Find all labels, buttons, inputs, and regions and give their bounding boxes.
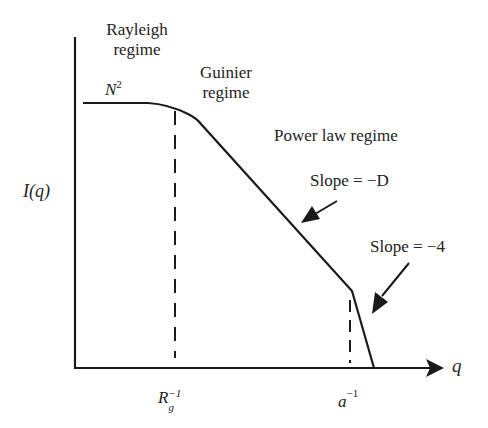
rayleigh-line1: Rayleigh (96, 20, 178, 40)
slope-4-text: Slope = −4 (370, 237, 445, 256)
rg-sub: g (168, 397, 174, 417)
slope-d-annotation: Slope = −D (310, 171, 389, 191)
a-sup: −1 (347, 387, 359, 399)
y-axis-label-text: I(q) (23, 181, 50, 201)
a-tick-label: a−1 (338, 392, 358, 412)
x-axis-label-text: q (452, 355, 462, 376)
plateau-base: N (105, 80, 116, 99)
slope-4-arrow-shaft (382, 263, 409, 296)
slope-d-text: Slope = −D (310, 171, 389, 190)
a-base: a (338, 392, 347, 411)
slope-4-annotation: Slope = −4 (370, 237, 445, 257)
x-axis-label: q (452, 356, 462, 376)
guinier-line1: Guinier (190, 63, 262, 83)
rg-tick-label: R−1g (158, 388, 180, 408)
rayleigh-regime-label: Rayleigh regime (96, 20, 178, 60)
plateau-sup: 2 (116, 78, 122, 90)
y-axis-label: I(q) (23, 181, 50, 201)
power-law-regime-label: Power law regime (274, 126, 398, 146)
slope-d-arrow-shaft (315, 201, 337, 214)
power-law-line1: Power law regime (274, 126, 398, 145)
guinier-regime-label: Guinier regime (190, 63, 262, 103)
scattering-regimes-diagram: Rayleigh regime N2 Guinier regime Power … (0, 0, 488, 428)
plateau-label: N2 (105, 80, 122, 100)
rg-base: R (158, 388, 168, 407)
slope-d-arrowhead-icon (301, 206, 320, 223)
rayleigh-line2: regime (96, 40, 178, 60)
slope-4-arrowhead-icon (372, 292, 388, 314)
guinier-line2: regime (190, 83, 262, 103)
